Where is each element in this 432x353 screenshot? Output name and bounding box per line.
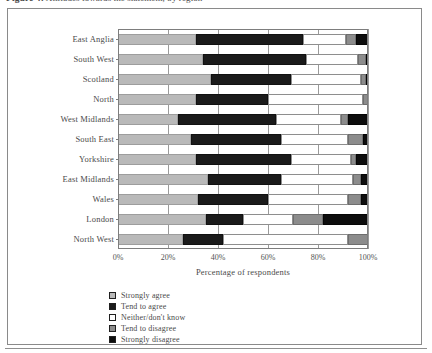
chart-plot-area <box>118 29 368 249</box>
bar-segment <box>183 234 223 245</box>
bar-row <box>118 74 368 85</box>
legend-swatch-icon <box>109 325 116 332</box>
x-axis-tick-label: 20% <box>148 253 188 262</box>
bar-segment <box>118 194 198 205</box>
bar-row <box>118 114 368 125</box>
legend-item: Strongly disagree <box>109 334 279 345</box>
figure-frame: East AngliaSouth WestScotlandNorthWest M… <box>7 8 422 345</box>
bar-segment <box>281 174 354 185</box>
bar-segment <box>356 34 369 45</box>
bar-segment <box>196 154 291 165</box>
y-axis-label: North <box>14 94 114 104</box>
bar-segment <box>363 134 368 145</box>
figure-underline <box>5 348 427 349</box>
legend-label: Neither/don't know <box>121 313 185 322</box>
bar-row <box>118 214 368 225</box>
bar-segment <box>191 134 281 145</box>
bar-row <box>118 234 368 245</box>
bar-segment <box>118 94 196 105</box>
x-axis-tick-label: 100% <box>348 253 388 262</box>
legend-swatch-icon <box>109 303 116 310</box>
bar-row <box>118 54 368 65</box>
y-axis-label: East Anglia <box>14 34 114 44</box>
bar-segment <box>178 114 276 125</box>
x-axis-title: Percentage of respondents <box>118 267 368 277</box>
bar-segment <box>223 234 348 245</box>
y-axis-label: East Midlands <box>14 174 114 184</box>
bar-segment <box>211 74 291 85</box>
bar-segment <box>118 214 206 225</box>
legend-item: Tend to agree <box>109 301 279 312</box>
bar-segment <box>366 54 369 65</box>
bar-segment <box>348 114 368 125</box>
bar-segment <box>118 34 196 45</box>
y-axis-label: Wales <box>14 194 114 204</box>
x-axis-tick-label: 0% <box>98 253 138 262</box>
bar-segment <box>323 214 368 225</box>
figure-caption-text: Attitudes towards the statement, by regi… <box>44 0 203 3</box>
bar-segment <box>118 154 196 165</box>
legend-item: Strongly agree <box>109 290 279 301</box>
bar-segment <box>358 54 366 65</box>
legend-label: Strongly disagree <box>121 335 180 344</box>
bar-segment <box>348 234 368 245</box>
legend-label: Tend to agree <box>121 302 166 311</box>
y-axis-label: South West <box>14 54 114 64</box>
figure-caption-prefix: Figure 4: <box>6 0 44 3</box>
bar-row <box>118 154 368 165</box>
y-axis-category-labels: East AngliaSouth WestScotlandNorthWest M… <box>10 29 114 249</box>
bar-segment <box>291 154 351 165</box>
bar-row <box>118 194 368 205</box>
bar-segment <box>118 234 183 245</box>
bar-segment <box>118 54 203 65</box>
x-axis-tick-label: 80% <box>298 253 338 262</box>
bar-segment <box>208 174 281 185</box>
gridline-100 <box>368 29 369 249</box>
x-axis-tick-label: 40% <box>198 253 238 262</box>
bar-segment <box>306 54 359 65</box>
bar-segment <box>276 114 341 125</box>
x-axis-tick-label: 60% <box>248 253 288 262</box>
bar-segment <box>346 34 356 45</box>
bar-segment <box>118 134 191 145</box>
bar-segment <box>268 194 348 205</box>
bar-segment <box>203 54 306 65</box>
bar-segment <box>361 194 369 205</box>
y-axis-label: West Midlands <box>14 114 114 124</box>
bar-segment <box>361 174 369 185</box>
bar-row <box>118 134 368 145</box>
bar-segment <box>353 174 361 185</box>
bar-segment <box>303 34 346 45</box>
bar-segment <box>366 74 369 85</box>
bar-segment <box>293 214 323 225</box>
bar-segment <box>281 134 349 145</box>
y-axis-label: North West <box>14 234 114 244</box>
bar-segment <box>348 134 363 145</box>
bar-segment <box>198 194 268 205</box>
bar-segment <box>348 194 361 205</box>
bar-segment <box>356 154 369 165</box>
bar-segment <box>341 114 349 125</box>
bar-segment <box>243 214 293 225</box>
bar-row <box>118 174 368 185</box>
bar-segment <box>118 114 178 125</box>
legend-label: Tend to disagree <box>121 324 176 333</box>
legend-item: Neither/don't know <box>109 312 279 323</box>
bar-segment <box>196 94 269 105</box>
legend-label: Strongly agree <box>121 291 170 300</box>
y-axis-label: Scotland <box>14 74 114 84</box>
bar-segment <box>291 74 361 85</box>
bar-segment <box>196 34 304 45</box>
bar-segment <box>206 214 244 225</box>
figure-caption: Figure 4: Attitudes towards the statemen… <box>6 0 426 6</box>
legend-swatch-icon <box>109 292 116 299</box>
bar-segment <box>268 94 363 105</box>
bar-segment <box>118 74 211 85</box>
y-axis-label: Yorkshire <box>14 154 114 164</box>
y-axis-label: South East <box>14 134 114 144</box>
chart-legend: Strongly agreeTend to agreeNeither/don't… <box>109 290 279 345</box>
y-axis-label: London <box>14 214 114 224</box>
bar-segment <box>363 94 368 105</box>
bar-segment <box>118 174 208 185</box>
legend-item: Tend to disagree <box>109 323 279 334</box>
